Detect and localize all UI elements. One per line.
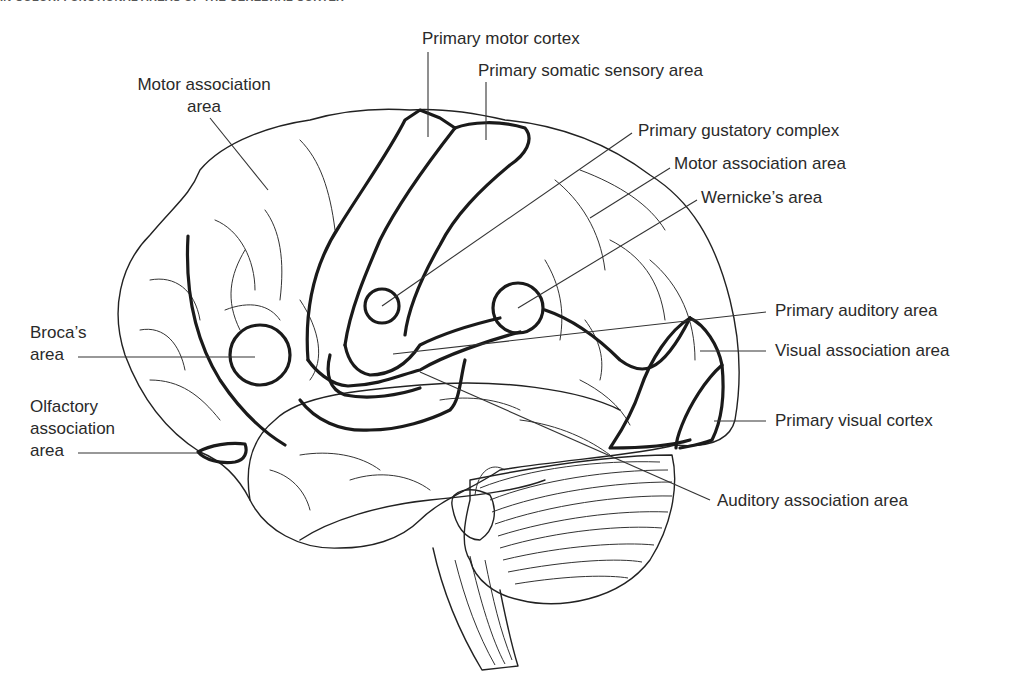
cerebellum — [452, 455, 675, 604]
label-text: Broca’s — [30, 322, 86, 344]
label-motor-association-area-right: Motor association area — [674, 153, 846, 175]
label-text: area — [30, 344, 86, 366]
label-primary-auditory-area: Primary auditory area — [775, 300, 938, 322]
label-text: association — [30, 418, 115, 440]
sulci — [140, 140, 695, 510]
label-text: Motor association — [116, 74, 292, 96]
label-primary-gustatory-complex: Primary gustatory complex — [638, 120, 839, 142]
label-visual-association-area: Visual association area — [775, 340, 950, 362]
functional-area-boundaries — [187, 110, 723, 463]
label-text: Olfactory — [30, 396, 115, 418]
label-olfactory-association-area: Olfactory association area — [30, 396, 115, 462]
label-text: area — [30, 440, 115, 462]
label-motor-association-area-left: Motor association area — [116, 74, 292, 118]
label-primary-somatic-sensory-area: Primary somatic sensory area — [478, 60, 703, 82]
label-wernickes-area: Wernicke’s area — [701, 187, 822, 209]
label-auditory-association-area: Auditory association area — [717, 490, 908, 512]
label-brocas-area: Broca’s area — [30, 322, 86, 366]
label-text: area — [116, 96, 292, 118]
label-primary-visual-cortex: Primary visual cortex — [775, 410, 933, 432]
label-primary-motor-cortex: Primary motor cortex — [422, 28, 580, 50]
brain-stem — [433, 548, 518, 670]
